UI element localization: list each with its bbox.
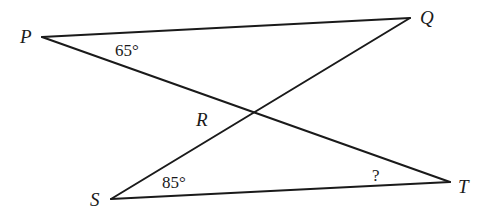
- vertex-label-t: T: [458, 177, 469, 196]
- vertex-label-s: S: [90, 190, 100, 209]
- angle-label-p: 65°: [115, 42, 139, 59]
- segment-pq: [42, 18, 410, 37]
- vertex-label-q: Q: [420, 8, 434, 27]
- vertex-label-p: P: [20, 27, 32, 46]
- angle-label-s: 85°: [162, 174, 186, 191]
- segment-pt: [42, 37, 450, 182]
- vertex-label-r: R: [196, 110, 208, 129]
- segment-qs: [111, 18, 410, 199]
- angle-label-t: ?: [372, 167, 380, 184]
- geometry-diagram: [0, 0, 483, 220]
